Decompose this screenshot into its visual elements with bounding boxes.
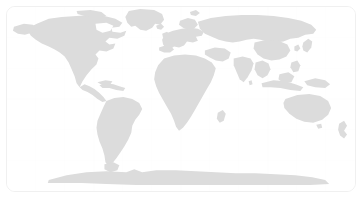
- world-map-svg[interactable]: [7, 7, 355, 191]
- screenshot-root: [0, 0, 362, 201]
- world-map-card[interactable]: [6, 6, 356, 192]
